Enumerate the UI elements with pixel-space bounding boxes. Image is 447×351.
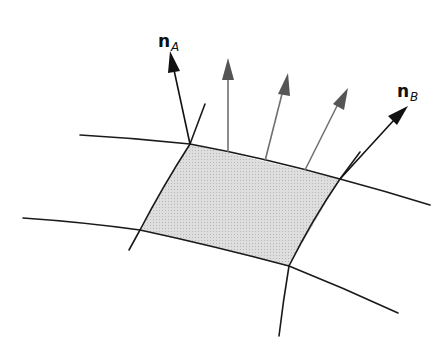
grid-line-bl-left [23,218,140,230]
arrowhead-icon [333,88,348,110]
arrowhead-icon [222,58,234,80]
normal-b-subscript: B [410,90,418,104]
normal-a-label: nA [158,33,179,53]
grid-line-bl-down [129,230,140,250]
grid-line-tl-up [190,104,205,144]
arrowhead-icon [278,73,290,96]
grid-line-br-down [279,266,289,336]
normal-b-arrow [340,120,394,179]
normal-b-label: nB [397,83,418,103]
grid-line-tr-right [340,179,430,205]
interior-normal-2 [265,90,283,161]
grid-line-tl-left [80,135,190,144]
interior-normal-arrows [222,58,348,170]
normal-a-arrow [174,70,190,144]
arrowhead-icon [168,51,180,73]
normal-b-symbol: n [397,81,409,101]
normal-a-subscript: A [171,40,179,54]
surface-patch-diagram [0,0,447,351]
normal-a-symbol: n [158,31,170,51]
shaded-patch [140,144,340,266]
interior-normal-3 [305,104,338,170]
grid-line-br-right [289,266,398,313]
